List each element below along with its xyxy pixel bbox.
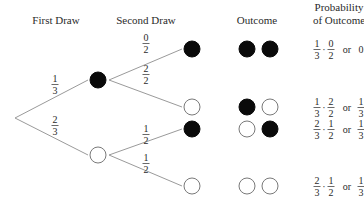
probability-row: 23·12or13 bbox=[314, 118, 364, 141]
outcome-second-black-ball bbox=[262, 121, 278, 137]
numerator: 1 bbox=[315, 96, 320, 107]
denominator: 3 bbox=[53, 126, 58, 137]
denominator: 3 bbox=[315, 130, 320, 141]
times-dot: · bbox=[322, 44, 325, 55]
numerator: 1 bbox=[359, 96, 364, 107]
outcome-first-white-ball bbox=[239, 121, 255, 137]
numerator: 2 bbox=[329, 96, 334, 107]
times-dot: · bbox=[322, 124, 325, 135]
probability-row: 13·22or13 bbox=[314, 96, 364, 119]
numerator: 1 bbox=[315, 38, 320, 49]
second-draw-white-ball bbox=[184, 99, 200, 115]
probability-row: 13·02or0 bbox=[314, 38, 364, 61]
denominator: 2 bbox=[144, 44, 149, 55]
second-draw-prob-1: 22 bbox=[143, 63, 150, 86]
outcome-second-black-ball bbox=[262, 41, 278, 57]
header-of-outcome: of Outcome bbox=[313, 14, 364, 26]
first-draw-prob-1: 23 bbox=[52, 114, 59, 137]
denominator: 3 bbox=[359, 130, 364, 141]
denominator: 2 bbox=[144, 75, 149, 86]
outcome-column bbox=[239, 41, 278, 194]
prob-factor-2: 02 bbox=[328, 38, 335, 61]
numerator: 2 bbox=[144, 63, 149, 74]
numerator: 0 bbox=[144, 32, 149, 43]
probability-row: 23·12or13 bbox=[314, 175, 364, 198]
second-draw-prob-3: 12 bbox=[143, 152, 150, 175]
numerator: 2 bbox=[53, 114, 58, 125]
header-probability: Probability bbox=[315, 1, 364, 13]
numerator: 0 bbox=[329, 38, 334, 49]
branch-first-1 bbox=[15, 118, 88, 155]
denominator: 2 bbox=[329, 130, 334, 141]
first-draw-white-ball bbox=[90, 147, 106, 163]
denominator: 3 bbox=[53, 85, 58, 96]
or-text: or bbox=[343, 102, 352, 113]
outcome-first-black-ball bbox=[239, 99, 255, 115]
prob-factor-2: 12 bbox=[328, 118, 335, 141]
result-fraction: 13 bbox=[358, 96, 364, 119]
header-second-draw: Second Draw bbox=[116, 14, 176, 26]
second-draw-white-ball bbox=[184, 178, 200, 194]
second-draw-black-ball bbox=[184, 121, 200, 137]
or-text: or bbox=[343, 44, 352, 55]
numerator: 1 bbox=[144, 152, 149, 163]
denominator: 3 bbox=[315, 187, 320, 198]
denominator: 2 bbox=[144, 135, 149, 146]
denominator: 3 bbox=[359, 187, 364, 198]
result-fraction: 13 bbox=[358, 175, 364, 198]
outcome-row bbox=[239, 178, 278, 194]
result-fraction: 13 bbox=[358, 118, 364, 141]
outcome-first-black-ball bbox=[239, 41, 255, 57]
numerator: 1 bbox=[359, 118, 364, 129]
outcome-row bbox=[239, 99, 278, 115]
second-draw-prob-0: 02 bbox=[143, 32, 150, 55]
second-draw-prob-2: 12 bbox=[143, 123, 150, 146]
result-value: 0 bbox=[359, 44, 364, 55]
numerator: 1 bbox=[144, 123, 149, 134]
numerator: 1 bbox=[329, 118, 334, 129]
prob-factor-1: 23 bbox=[314, 118, 321, 141]
denominator: 2 bbox=[329, 187, 334, 198]
probability-tree-diagram: First Draw Second Draw Outcome Probabili… bbox=[0, 0, 364, 205]
denominator: 2 bbox=[144, 164, 149, 175]
outcome-row bbox=[239, 121, 278, 137]
prob-factor-1: 13 bbox=[314, 96, 321, 119]
outcome-second-white-ball bbox=[262, 178, 278, 194]
header-first-draw: First Draw bbox=[32, 14, 79, 26]
prob-factor-2: 22 bbox=[328, 96, 335, 119]
or-text: or bbox=[343, 124, 352, 135]
first-draw-black-ball bbox=[90, 72, 106, 88]
denominator: 2 bbox=[329, 50, 334, 61]
prob-factor-2: 12 bbox=[328, 175, 335, 198]
probability-column: 13·02or013·22or1323·12or1323·12or13 bbox=[314, 38, 364, 198]
numerator: 1 bbox=[53, 73, 58, 84]
numerator: 2 bbox=[315, 175, 320, 186]
tree-branches bbox=[15, 49, 182, 186]
outcome-second-white-ball bbox=[262, 99, 278, 115]
times-dot: · bbox=[322, 181, 325, 192]
branch-first-0 bbox=[15, 80, 88, 118]
denominator: 3 bbox=[315, 50, 320, 61]
second-draw-black-ball bbox=[184, 41, 200, 57]
prob-factor-1: 23 bbox=[314, 175, 321, 198]
times-dot: · bbox=[322, 102, 325, 113]
or-text: or bbox=[343, 181, 352, 192]
prob-factor-1: 13 bbox=[314, 38, 321, 61]
header-outcome: Outcome bbox=[237, 14, 277, 26]
numerator: 1 bbox=[329, 175, 334, 186]
outcome-first-white-ball bbox=[239, 178, 255, 194]
first-draw-prob-0: 13 bbox=[52, 73, 59, 96]
numerator: 1 bbox=[359, 175, 364, 186]
outcome-row bbox=[239, 41, 278, 57]
numerator: 2 bbox=[315, 118, 320, 129]
